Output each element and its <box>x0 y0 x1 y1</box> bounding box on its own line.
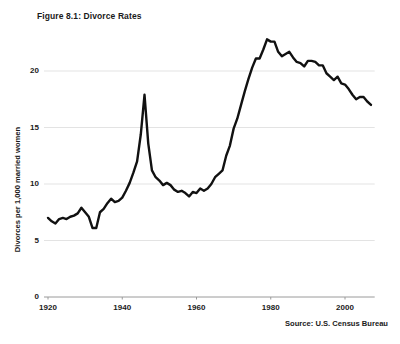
gridlines-group <box>44 71 375 297</box>
ytick-label-0: 0 <box>17 292 39 301</box>
xtick-label-1960: 1960 <box>177 303 217 312</box>
ytick-label-5: 5 <box>17 236 39 245</box>
xtick-label-1920: 1920 <box>28 303 68 312</box>
chart-plot-area: Divorces per 1,000 married women 0510152… <box>0 0 400 344</box>
xtick-label-1940: 1940 <box>102 303 142 312</box>
ytick-label-20: 20 <box>17 66 39 75</box>
y-axis-label: Divorces per 1,000 married women <box>13 110 22 270</box>
ytick-label-10: 10 <box>17 179 39 188</box>
figure-divorce-rates: Figure 8.1: Divorce Rates Divorces per 1… <box>0 0 400 344</box>
xtick-label-2000: 2000 <box>325 303 365 312</box>
line-chart-svg <box>0 0 400 344</box>
data-series-line <box>48 39 371 228</box>
ytick-label-15: 15 <box>17 123 39 132</box>
xtick-label-1980: 1980 <box>251 303 291 312</box>
source-note: Source: U.S. Census Bureau <box>285 319 388 328</box>
